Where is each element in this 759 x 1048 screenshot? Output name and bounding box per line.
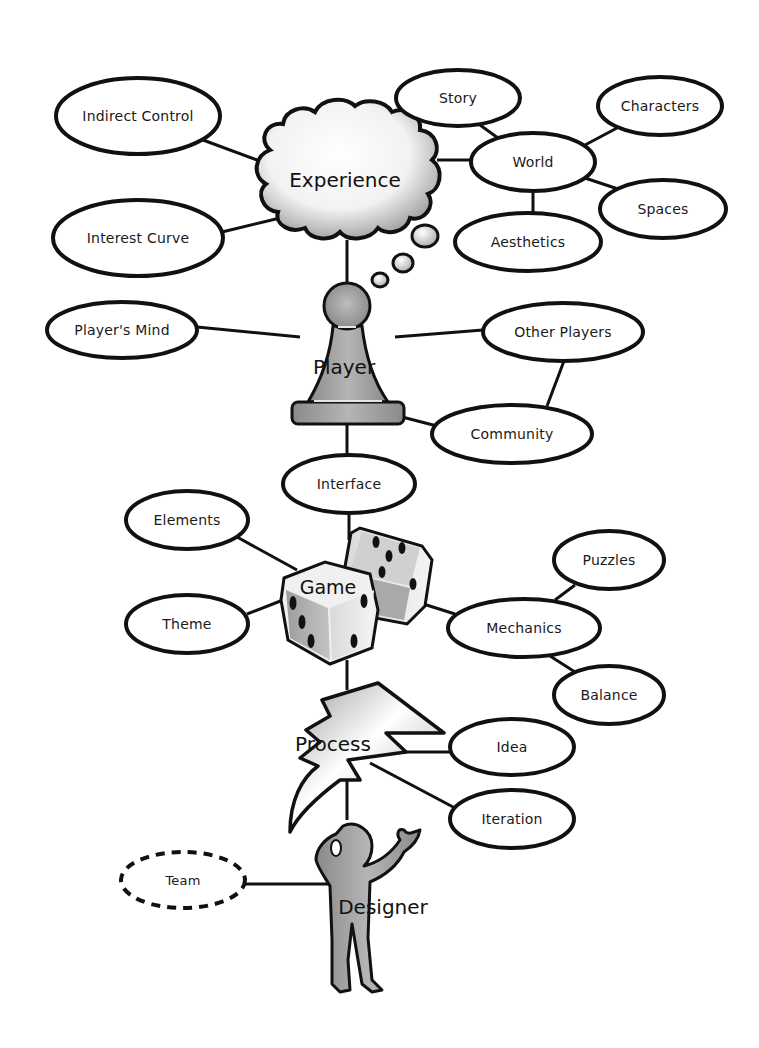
- link-player-players-mind: [197, 327, 300, 337]
- node-team[interactable]: Team: [121, 852, 245, 908]
- experience-label: Experience: [289, 168, 401, 192]
- node-iteration[interactable]: Iteration: [450, 790, 574, 848]
- link-player-community: [402, 417, 437, 426]
- game-label: Game: [300, 576, 357, 598]
- thought-bubble-icon: [412, 225, 438, 247]
- node-balance[interactable]: Balance: [554, 666, 664, 724]
- node-label: Elements: [154, 512, 221, 528]
- player-label: Player: [313, 355, 376, 379]
- node-theme[interactable]: Theme: [126, 595, 248, 653]
- process-hub[interactable]: Process: [290, 683, 444, 832]
- node-other-players[interactable]: Other Players: [483, 303, 643, 361]
- node-label: World: [512, 154, 553, 170]
- player-hub[interactable]: Player: [292, 283, 404, 424]
- node-label: Community: [471, 426, 554, 442]
- node-aesthetics[interactable]: Aesthetics: [455, 213, 601, 271]
- node-community[interactable]: Community: [432, 405, 592, 463]
- node-story[interactable]: Story: [396, 70, 520, 126]
- experience-hub[interactable]: Experience: [257, 100, 440, 239]
- node-label: Balance: [580, 687, 637, 703]
- node-label: Characters: [621, 98, 699, 114]
- node-world[interactable]: World: [471, 133, 595, 191]
- node-spaces[interactable]: Spaces: [600, 180, 726, 238]
- link-world-story: [480, 125, 498, 138]
- node-label: Iteration: [481, 811, 542, 827]
- node-puzzles[interactable]: Puzzles: [554, 531, 664, 589]
- link-game-theme: [247, 600, 283, 614]
- thought-bubbles: [372, 225, 438, 287]
- node-characters[interactable]: Characters: [598, 77, 722, 135]
- process-label: Process: [295, 732, 371, 756]
- lightning-bolt-icon: [290, 683, 444, 832]
- link-process-iteration: [370, 763, 455, 808]
- thought-bubble-icon: [393, 254, 413, 272]
- node-label: Team: [164, 873, 200, 888]
- node-label: Story: [439, 90, 477, 106]
- node-label: Indirect Control: [82, 108, 193, 124]
- node-idea[interactable]: Idea: [450, 719, 574, 775]
- node-label: Theme: [161, 616, 211, 632]
- node-label: Interest Curve: [87, 230, 190, 246]
- node-mechanics[interactable]: Mechanics: [448, 599, 600, 657]
- node-label: Aesthetics: [491, 234, 566, 250]
- link-game-elements: [237, 537, 297, 570]
- node-players-mind[interactable]: Player's Mind: [47, 302, 197, 358]
- node-interface[interactable]: Interface: [283, 455, 415, 513]
- node-elements[interactable]: Elements: [126, 491, 248, 549]
- link-mechanics-puzzles: [555, 585, 575, 600]
- designer-hub[interactable]: Designer: [316, 824, 429, 992]
- link-player-other-players: [395, 330, 483, 337]
- thought-bubble-icon: [372, 273, 388, 287]
- node-label: Mechanics: [486, 620, 561, 636]
- link-mechanics-balance: [550, 656, 575, 672]
- game-design-diagram: Experience Player: [0, 0, 759, 1048]
- link-world-characters: [585, 128, 617, 145]
- node-indirect-control[interactable]: Indirect Control: [56, 78, 220, 154]
- link-experience-indirect-control: [203, 140, 265, 163]
- game-hub[interactable]: Game: [281, 528, 432, 664]
- node-label: Spaces: [637, 201, 688, 217]
- node-interest-curve[interactable]: Interest Curve: [53, 200, 223, 276]
- designer-label: Designer: [338, 895, 428, 919]
- link-world-spaces: [585, 178, 618, 189]
- pawn-icon: [292, 283, 404, 424]
- node-label: Interface: [317, 476, 381, 492]
- node-label: Idea: [496, 739, 527, 755]
- node-label: Puzzles: [583, 552, 636, 568]
- node-label: Other Players: [514, 324, 612, 340]
- link-experience-interest-curve: [222, 218, 280, 232]
- link-other-players-community: [547, 361, 564, 406]
- node-label: Player's Mind: [74, 322, 170, 338]
- designer-eye-icon: [331, 840, 341, 856]
